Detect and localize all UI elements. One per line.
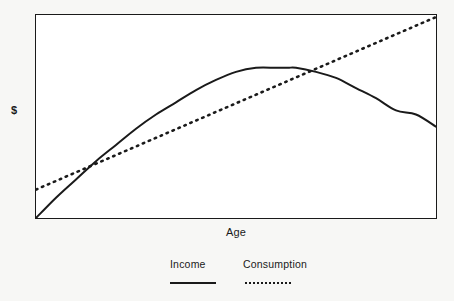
legend-swatch-solid-line xyxy=(170,282,216,287)
consumption-line xyxy=(36,17,436,190)
legend-entry-consumption: Consumption xyxy=(243,258,325,292)
x-axis-title: Age xyxy=(35,226,437,238)
legend-swatch-dotted-line xyxy=(245,282,291,287)
legend-label-income: Income xyxy=(170,258,230,271)
y-axis-title: $ xyxy=(11,104,17,116)
plot-curves xyxy=(36,15,436,218)
plot-area xyxy=(35,14,437,219)
chart-legend: Income Consumption xyxy=(160,258,310,292)
legend-label-consumption: Consumption xyxy=(243,258,325,271)
income-curve xyxy=(36,67,436,218)
legend-entry-income: Income xyxy=(170,258,230,292)
income-consumption-chart: $ Age Income Consumption xyxy=(0,0,454,301)
